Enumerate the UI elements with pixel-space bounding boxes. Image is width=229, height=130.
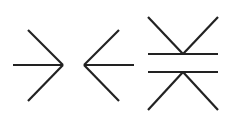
- diagram-canvas: [0, 0, 229, 130]
